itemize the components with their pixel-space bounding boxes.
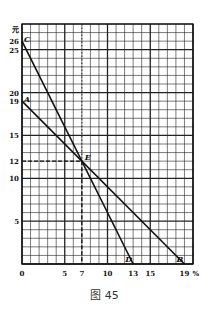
figure-caption: 图 45 — [0, 286, 209, 302]
y-tick-label: 25 — [9, 46, 19, 55]
x-axis-unit: % — [192, 269, 199, 278]
x-tick-label: 0 — [20, 269, 25, 278]
y-tick-label: 5 — [14, 217, 19, 226]
y-tick-label: 20 — [9, 89, 19, 98]
point-label: D — [124, 254, 132, 264]
y-tick-label: 15 — [9, 131, 19, 140]
y-tick-label: 26 — [9, 37, 19, 46]
x-tick-label: 10 — [103, 269, 113, 278]
x-tick-label: 15 — [145, 269, 155, 278]
y-axis-unit: 元 — [12, 25, 19, 34]
series-line-AB — [22, 101, 184, 264]
y-tick-label: 19 — [9, 97, 19, 106]
y-tick-label: 12 — [9, 157, 19, 166]
chart: CDABE05710131519%510121519202526元 — [0, 0, 209, 312]
x-tick-label: 5 — [62, 269, 67, 278]
point-label: A — [23, 94, 30, 104]
x-tick-label: 13 — [128, 269, 138, 278]
point-label: C — [24, 34, 31, 44]
point-label-e: E — [84, 152, 92, 162]
x-tick-label: 19 — [180, 269, 190, 278]
point-label: B — [175, 254, 183, 264]
y-tick-label: 10 — [9, 174, 19, 183]
x-tick-label: 7 — [79, 269, 84, 278]
